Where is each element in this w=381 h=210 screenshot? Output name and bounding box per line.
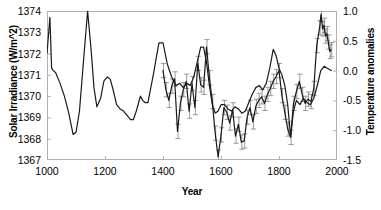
y-tick-left-1371: 1371 — [1, 70, 41, 81]
x-tick-1400: 1400 — [133, 166, 193, 177]
y-tick-left-1367: 1367 — [1, 155, 41, 166]
series-line-temperature-anomalies — [163, 14, 331, 157]
y-tick-left-1372: 1372 — [1, 49, 41, 60]
y-tick-left-1368: 1368 — [1, 134, 41, 145]
y-tick-right-neg1_5: -1.5 — [343, 155, 381, 166]
y-tick-left-1369: 1369 — [1, 112, 41, 123]
y-tick-left-1374: 1374 — [1, 6, 41, 17]
y-tick-left-1370: 1370 — [1, 91, 41, 102]
x-tick-1600: 1600 — [191, 166, 251, 177]
y-tick-right-neg1: -1.0 — [343, 125, 381, 136]
solar-irradiance-temperature-chart: Solar Irradiance (W/m^2) Temperature ano… — [0, 0, 381, 210]
y-tick-right-1: 1.0 — [343, 6, 381, 17]
x-axis-title: Year — [47, 186, 337, 197]
x-tick-2000: 2000 — [307, 166, 367, 177]
x-tick-1200: 1200 — [75, 166, 135, 177]
y-tick-right-0_5: 0.5 — [343, 36, 381, 47]
x-tick-1800: 1800 — [249, 166, 309, 177]
y-tick-left-1373: 1373 — [1, 27, 41, 38]
y-tick-right-neg0_5: -0.5 — [343, 95, 381, 106]
x-tick-1000: 1000 — [17, 166, 77, 177]
plot-area — [47, 11, 337, 160]
y-tick-right-0: 0.0 — [343, 66, 381, 77]
plot-svg — [47, 11, 337, 160]
